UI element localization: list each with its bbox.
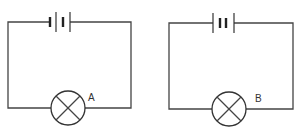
lamp-a-label: A: [88, 92, 95, 103]
lamp-a-icon: [51, 91, 85, 125]
circuit-a: A: [8, 12, 131, 125]
lamp-b-label: B: [255, 93, 262, 104]
battery-b-icon: [213, 13, 234, 33]
battery-a-icon: [50, 12, 70, 32]
circuit-diagram: A B: [0, 0, 294, 131]
lamp-b-icon: [212, 92, 246, 126]
circuit-b: B: [169, 13, 293, 126]
